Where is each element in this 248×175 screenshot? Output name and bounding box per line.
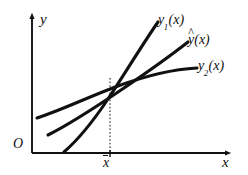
origin-label: O [13,137,23,151]
curve-label-y1-argument: (x) [169,12,185,27]
x-bar-tick-label-text: x [103,155,109,170]
curve-label-y1: y1(x) [158,13,184,29]
overbar-icon [103,155,108,156]
curve-label-yhat: ^y(x) [188,33,210,47]
curve-label-y2: y2(x) [198,59,224,75]
figure-canvas [0,0,248,175]
curve-label-yhat-base-wrap: ^y [188,33,194,47]
curve-label-yhat-argument: (x) [194,32,210,47]
x-axis-label: x [222,155,229,170]
curve-label-y2-subscript: 2 [204,68,208,78]
y-axis-label: y [40,12,47,27]
regression-band-figure: y1(x) ^y(x) y2(x) y x O x [0,0,248,175]
circumflex-accent-icon: ^ [188,27,194,39]
curve-label-y2-argument: (x) [209,58,225,73]
curve-label-y1-subscript: 1 [164,22,168,32]
x-bar-glyph-wrap: x [103,155,109,170]
curve-yhat [48,42,188,135]
x-bar-tick-label: x [103,155,109,170]
